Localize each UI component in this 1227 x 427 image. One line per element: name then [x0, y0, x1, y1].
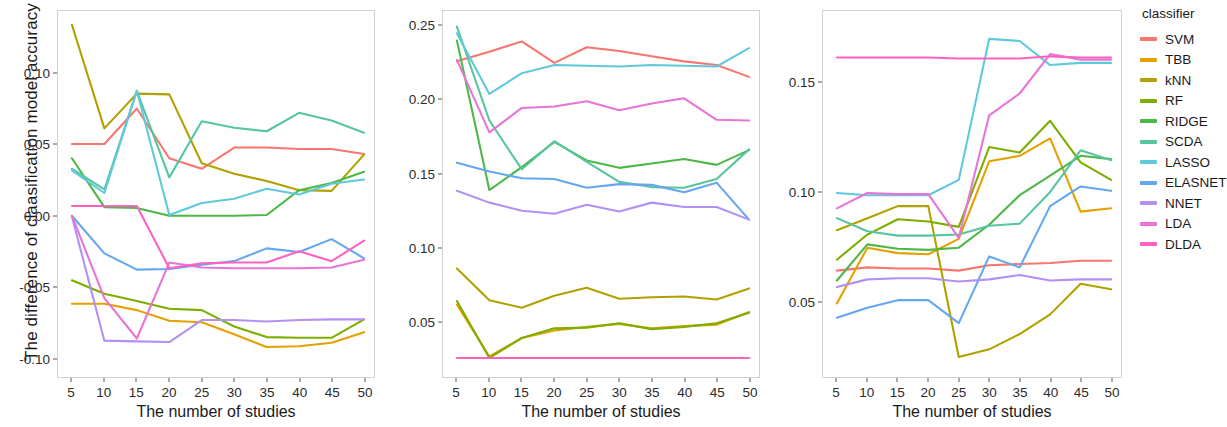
y-tick-label: 0.10: [409, 241, 442, 256]
plot-area-2: [442, 10, 760, 378]
y-tick-mark: [438, 322, 442, 323]
x-axis-title-3: The number of studies: [822, 403, 1122, 421]
x-tick-label: 45: [1074, 385, 1089, 400]
x-tick-mark: [1112, 378, 1113, 382]
x-tick-mark: [684, 378, 685, 382]
legend-item-tbb[interactable]: TBB: [1140, 50, 1220, 71]
x-tick-label: 15: [129, 385, 144, 400]
x-tick-mark: [554, 378, 555, 382]
y-tick-label: 0.25: [409, 17, 442, 32]
legend-swatch-icon: [1140, 222, 1157, 226]
y-tick-mark: [818, 301, 822, 302]
x-tick-label: 25: [951, 385, 966, 400]
y-tick-mark: [438, 99, 442, 100]
x-tick-mark: [332, 378, 333, 382]
y-tick-mark: [438, 248, 442, 249]
y-tick-label: 0.05: [409, 315, 442, 330]
plot-lines-1: [58, 11, 374, 377]
x-tick-mark: [1020, 378, 1021, 382]
x-tick-mark: [897, 378, 898, 382]
x-tick-mark: [1050, 378, 1051, 382]
legend-swatch-icon: [1140, 37, 1157, 41]
y-tick-mark: [53, 215, 57, 216]
legend-swatch-icon: [1140, 119, 1157, 123]
legend-item-label: NNET: [1165, 196, 1202, 211]
legend-swatch-icon: [1140, 58, 1157, 62]
x-tick-label: 10: [859, 385, 874, 400]
x-tick-label: 5: [452, 385, 460, 400]
x-tick-label: 45: [710, 385, 725, 400]
x-tick-label: 15: [890, 385, 905, 400]
x-axis-title-2: The number of studies: [442, 403, 760, 421]
x-tick-mark: [836, 378, 837, 382]
plot-area-3: [822, 10, 1122, 378]
plot-lines-3: [823, 11, 1121, 377]
legend-item-rf[interactable]: RF: [1140, 91, 1220, 112]
y-tick-label: -0.05: [19, 280, 57, 295]
x-tick-label: 50: [1104, 385, 1119, 400]
x-tick-label: 40: [677, 385, 692, 400]
legend-item-elasnet[interactable]: ELASNET: [1140, 173, 1220, 194]
x-tick-mark: [365, 378, 366, 382]
x-tick-mark: [71, 378, 72, 382]
y-tick-mark: [53, 73, 57, 74]
y-tick-mark: [53, 358, 57, 359]
series-line-elasnet: [72, 216, 364, 270]
legend-item-nnet[interactable]: NNET: [1140, 193, 1220, 214]
x-tick-label: 20: [546, 385, 561, 400]
y-tick-label: 0.10: [789, 184, 822, 199]
plot-lines-2: [443, 11, 759, 377]
series-line-scda: [72, 91, 364, 190]
y-tick-label: 0.15: [409, 166, 442, 181]
x-tick-label: 25: [579, 385, 594, 400]
x-tick-mark: [652, 378, 653, 382]
series-line-nnet: [457, 191, 749, 220]
legend-swatch-icon: [1140, 242, 1157, 246]
y-tick-label: 0.00: [24, 208, 57, 223]
legend-item-ridge[interactable]: RIDGE: [1140, 111, 1220, 132]
legend-swatch-icon: [1140, 160, 1157, 164]
x-tick-label: 5: [832, 385, 840, 400]
x-tick-mark: [521, 378, 522, 382]
x-tick-mark: [234, 378, 235, 382]
series-line-elasnet: [837, 186, 1111, 323]
series-line-tbb: [457, 305, 749, 357]
chart-panel-2: 0.050.100.150.200.255101520253035404550 …: [442, 10, 760, 378]
y-tick-label: -0.10: [19, 351, 57, 366]
x-tick-label: 50: [742, 385, 757, 400]
legend-item-lasso[interactable]: LASSO: [1140, 152, 1220, 173]
x-tick-mark: [866, 378, 867, 382]
legend-swatch-icon: [1140, 99, 1157, 103]
x-tick-label: 40: [1043, 385, 1058, 400]
legend-item-dlda[interactable]: DLDA: [1140, 234, 1220, 255]
legend-item-svm[interactable]: SVM: [1140, 29, 1220, 50]
x-tick-label: 25: [194, 385, 209, 400]
x-tick-label: 35: [259, 385, 274, 400]
legend-item-knn[interactable]: kNN: [1140, 70, 1220, 91]
x-tick-mark: [750, 378, 751, 382]
x-tick-label: 45: [325, 385, 340, 400]
legend-item-label: RIDGE: [1165, 114, 1208, 129]
y-axis-title: The difference of claasification model a…: [22, 0, 42, 382]
legend-item-lda[interactable]: LDA: [1140, 214, 1220, 235]
legend-item-scda[interactable]: SCDA: [1140, 132, 1220, 153]
legend-item-label: LASSO: [1165, 155, 1210, 170]
x-tick-label: 5: [67, 385, 75, 400]
legend: classifier SVMTBBkNNRFRIDGESCDALASSOELAS…: [1140, 6, 1220, 255]
legend-item-label: ELASNET: [1165, 175, 1227, 190]
x-tick-mark: [201, 378, 202, 382]
x-tick-label: 20: [920, 385, 935, 400]
legend-swatch-icon: [1140, 78, 1157, 82]
x-tick-label: 35: [1012, 385, 1027, 400]
series-line-knn: [72, 25, 364, 191]
legend-item-label: kNN: [1165, 73, 1191, 88]
y-tick-mark: [53, 287, 57, 288]
chart-panel-3: 0.050.100.155101520253035404550 The numb…: [822, 10, 1122, 378]
legend-item-label: DLDA: [1165, 237, 1201, 252]
series-line-lda: [457, 60, 749, 132]
x-tick-mark: [1081, 378, 1082, 382]
y-tick-mark: [53, 144, 57, 145]
y-tick-mark: [438, 24, 442, 25]
x-tick-label: 35: [644, 385, 659, 400]
y-tick-label: 0.20: [409, 92, 442, 107]
